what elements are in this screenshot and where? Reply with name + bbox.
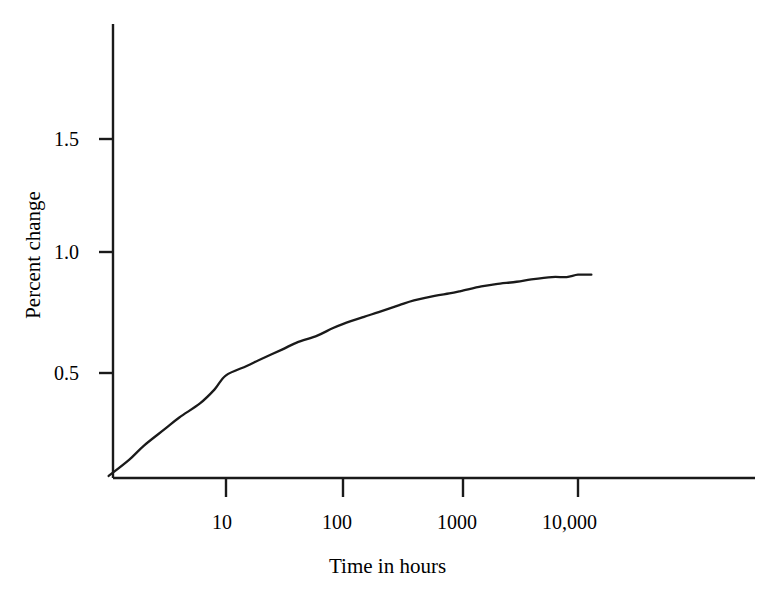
x-tick-label-1000: 1000 — [437, 512, 477, 532]
y-axis-title: Percent change — [21, 191, 46, 319]
x-tick-label-10000: 10,000 — [542, 512, 597, 532]
y-axis-title-wrap: Percent change — [18, 170, 48, 340]
y-tick-label-1-0: 1.0 — [54, 242, 79, 262]
chart-figure: 1.5 1.0 0.5 10 100 1000 10,000 Time in h… — [0, 0, 773, 608]
x-tick-label-10: 10 — [212, 512, 232, 532]
data-series-line — [109, 275, 592, 476]
x-axis-title: Time in hours — [329, 556, 446, 577]
x-tick-label-100: 100 — [322, 512, 352, 532]
y-tick-label-1-5: 1.5 — [54, 129, 79, 149]
chart-plot-area — [0, 0, 773, 608]
y-tick-label-0-5: 0.5 — [54, 363, 79, 383]
